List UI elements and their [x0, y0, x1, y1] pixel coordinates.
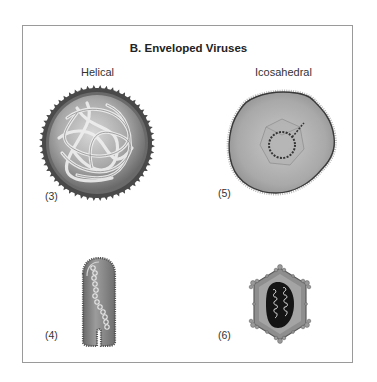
column-header-helical: Helical: [81, 66, 114, 78]
virus-5-enveloped-icosahedral-icon: [226, 89, 338, 197]
panel-label-6: (6): [218, 329, 231, 341]
virus-6-hexagonal-icosahedral-icon: [248, 264, 312, 344]
virus-3-spherical-helical-icon: [38, 84, 156, 202]
panel-label-3: (3): [45, 190, 58, 202]
figure-title: B. Enveloped Viruses: [0, 42, 377, 54]
panel-label-5: (5): [218, 187, 231, 199]
virus-4-bullet-helical-icon: [79, 256, 119, 348]
column-header-icosahedral: Icosahedral: [255, 66, 312, 78]
panel-label-4: (4): [45, 329, 58, 341]
